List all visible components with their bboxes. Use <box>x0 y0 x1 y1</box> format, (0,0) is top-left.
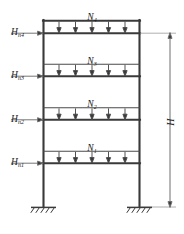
lateral-force-label-n2: Hn2 <box>11 109 24 125</box>
vertical-load-label-n3: N3 <box>80 51 104 67</box>
load-arrow <box>90 108 94 119</box>
load-arrows-storey-2 <box>57 108 127 119</box>
frame-load-diagram: N4 N3 N2 N1 Hn4 Hn3 Hn2 Hn1 H <box>0 0 184 234</box>
load-arrow <box>106 108 110 119</box>
lateral-force-label-n3: Hn3 <box>11 65 24 81</box>
load-arrow <box>90 22 94 34</box>
load-arrow <box>73 152 77 163</box>
support-hatching <box>31 207 55 212</box>
dimension-arrowhead-bottom <box>168 202 172 208</box>
lateral-force-arrows <box>11 31 43 165</box>
vertical-load-label-n2: N2 <box>80 94 104 110</box>
frame-drawing <box>0 0 184 234</box>
vertical-load-label-n4: N4 <box>80 7 104 23</box>
fixed-support-right <box>127 207 152 212</box>
vertical-load-label-n1: N1 <box>80 138 104 154</box>
load-arrow <box>57 108 61 119</box>
load-arrows-storey-4 <box>57 22 127 34</box>
load-arrow <box>57 22 61 34</box>
load-arrow <box>123 65 127 76</box>
load-arrow <box>123 152 127 163</box>
support-hatching <box>127 207 151 212</box>
load-arrow <box>123 22 127 34</box>
lateral-force-label-n4: Hn4 <box>11 22 24 38</box>
load-arrow <box>73 108 77 119</box>
load-arrow <box>57 152 61 163</box>
fixed-support-left <box>31 207 56 212</box>
lateral-force-label-n1: Hn1 <box>11 152 24 168</box>
load-arrow <box>106 152 110 163</box>
load-arrow <box>106 65 110 76</box>
load-arrow <box>73 65 77 76</box>
load-arrow <box>106 22 110 34</box>
load-arrow <box>73 22 77 34</box>
load-arrow <box>57 65 61 76</box>
load-arrow <box>123 108 127 119</box>
height-dimension-label: H <box>161 114 177 130</box>
